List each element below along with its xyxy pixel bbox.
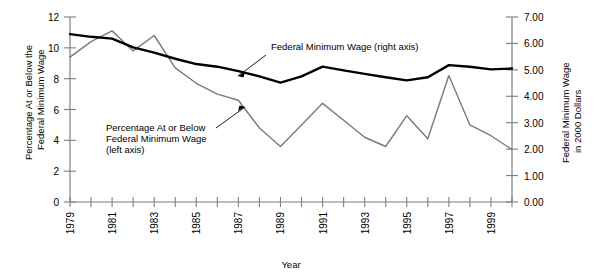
x-tick-label: 1979	[65, 212, 76, 235]
annotation-fmw-leader-line	[238, 55, 266, 76]
left-axis-title: Percentage At or Below the Federal Minim…	[23, 45, 46, 160]
x-tick-label: 1989	[275, 212, 286, 235]
right-tick-label: 6.00	[524, 38, 544, 49]
left-axis-title-line1: Percentage At or Below the	[23, 45, 34, 160]
right-tick-label: 0.00	[524, 197, 544, 208]
x-tick-label: 1981	[107, 212, 118, 235]
x-axis-title: Year	[281, 259, 300, 270]
right-axis-title-line1: Federal Minimum Wage	[560, 63, 571, 163]
x-tick-label: 1987	[233, 212, 244, 235]
annotation-fmw-text: Federal Minimum Wage (right axis)	[271, 41, 418, 52]
right-tick-label: 7.00	[524, 12, 544, 23]
right-tick-label: 3.00	[524, 118, 544, 129]
chart-figure: 024681012 0.001.002.003.004.005.006.007.…	[0, 0, 615, 278]
chart-canvas: 024681012 0.001.002.003.004.005.006.007.…	[0, 0, 615, 278]
annotation-pct-leader-line	[216, 107, 245, 128]
right-tick-label: 5.00	[524, 65, 544, 76]
right-axis-title: Federal Minimum Wage in 2000 Dollars	[560, 63, 583, 163]
right-tick-label: 4.00	[524, 91, 544, 102]
x-tick-label: 1983	[149, 212, 160, 235]
annotation-pct-line2: Federal Minimum Wage	[106, 133, 206, 144]
left-tick-label: 0	[53, 197, 59, 208]
right-tick-label: 1.00	[524, 171, 544, 182]
right-tick-label: 2.00	[524, 144, 544, 155]
left-axis-title-line2: Federal Minimum Wage	[35, 50, 46, 150]
left-tick-label: 2	[53, 166, 59, 177]
left-tick-label: 8	[53, 74, 59, 85]
x-axis-tick-labels: 1979198119831985198719891991199319951997…	[65, 212, 497, 235]
annotation-pct-line1: Percentage At or Below	[106, 122, 205, 133]
left-tick-label: 4	[53, 135, 59, 146]
annotation-federal-minimum-wage: Federal Minimum Wage (right axis)	[238, 41, 418, 78]
right-axis-title-line2: in 2000 Dollars	[572, 89, 583, 153]
x-tick-label: 1999	[486, 212, 497, 235]
left-tick-label: 6	[53, 105, 59, 116]
annotation-pct-line3: (left axis)	[106, 144, 145, 155]
x-tick-label: 1991	[318, 212, 329, 235]
left-tick-label: 12	[48, 12, 60, 23]
left-tick-label: 10	[48, 43, 60, 54]
annotation-percentage-at-or-below: Percentage At or Below Federal Minimum W…	[106, 106, 245, 156]
x-tick-label: 1995	[402, 212, 413, 235]
left-axis-ticks: 024681012	[48, 12, 76, 208]
x-tick-label: 1997	[444, 212, 455, 235]
x-tick-label: 1993	[360, 212, 371, 235]
x-tick-label: 1985	[191, 212, 202, 235]
